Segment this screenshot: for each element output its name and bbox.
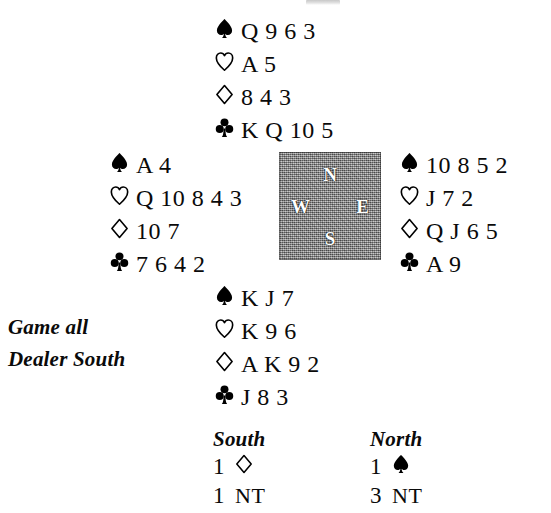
hand-east-spades: 10 8 5 2 — [426, 153, 508, 177]
compass-east-label: E — [356, 197, 369, 216]
hand-north-clubs: K Q 10 5 — [241, 118, 334, 142]
spade-icon — [110, 152, 136, 173]
hand-south-spades-row: K J 7 — [215, 285, 320, 318]
diamond-icon — [110, 218, 136, 239]
vulnerability-label: Game all — [8, 311, 125, 343]
auction-bid-south-1: 1 — [213, 454, 265, 484]
heart-icon — [215, 318, 241, 339]
auction-bid-south-2: 1 NT — [213, 484, 265, 513]
diamond-icon — [215, 351, 241, 372]
auction-table: South 1 1 NT North 1 3 NT — [0, 424, 551, 513]
hand-west-diamonds: 10 7 — [136, 219, 180, 243]
compass-north-label: N — [323, 165, 337, 184]
dealer-label: Dealer South — [8, 343, 125, 375]
hand-west-spades: A 4 — [136, 153, 172, 177]
hand-east-diamonds: Q J 6 5 — [426, 219, 498, 243]
auction-header-south: South — [213, 424, 265, 454]
bid-denomination-notrump: NT — [235, 485, 265, 507]
hand-east-hearts: J 7 2 — [426, 186, 474, 210]
compass-south-label: S — [325, 229, 336, 248]
hand-east: 10 8 5 2 J 7 2 Q J 6 5 — [400, 152, 508, 284]
heart-icon — [215, 51, 241, 72]
auction-bid-north-2: 3 NT — [370, 484, 422, 513]
spade-icon — [215, 285, 241, 306]
hand-south-clubs: J 8 3 — [241, 385, 289, 409]
compass-west-label: W — [291, 197, 310, 216]
bid-level: 1 — [213, 455, 235, 478]
club-icon — [400, 251, 426, 272]
club-icon — [215, 384, 241, 405]
diamond-icon — [235, 454, 253, 474]
hand-north-hearts-row: A 5 — [215, 51, 334, 84]
hand-north: Q 9 6 3 A 5 8 4 3 — [215, 18, 334, 150]
hand-north-clubs-row: K Q 10 5 — [215, 117, 334, 150]
heart-icon — [400, 185, 426, 206]
hand-west-clubs-row: 7 6 4 2 — [110, 251, 242, 284]
spade-icon — [215, 18, 241, 39]
hand-north-spades: Q 9 6 3 — [241, 19, 316, 43]
auction-column-south: South 1 1 NT — [213, 424, 265, 513]
hand-east-diamonds-row: Q J 6 5 — [400, 218, 508, 251]
hand-south-diamonds-row: A K 9 2 — [215, 351, 320, 384]
club-icon — [110, 251, 136, 272]
hand-north-hearts: A 5 — [241, 52, 277, 76]
bid-level: 1 — [370, 455, 392, 478]
auction-column-north: North 1 3 NT — [370, 424, 422, 513]
hand-east-clubs: A 9 — [426, 252, 462, 276]
heart-icon — [110, 185, 136, 206]
hand-west-diamonds-row: 10 7 — [110, 218, 242, 251]
hand-east-spades-row: 10 8 5 2 — [400, 152, 508, 185]
club-icon — [215, 117, 241, 138]
diamond-icon — [215, 84, 241, 105]
bid-denomination-notrump: NT — [392, 485, 422, 507]
hand-south-clubs-row: J 8 3 — [215, 384, 320, 417]
scan-artifact — [306, 0, 340, 5]
hand-west-hearts: Q 10 8 4 3 — [136, 186, 242, 210]
hand-west-hearts-row: Q 10 8 4 3 — [110, 185, 242, 218]
bid-level: 1 — [213, 484, 235, 507]
hand-south: K J 7 K 9 6 A K 9 2 — [215, 285, 320, 417]
hand-west: A 4 Q 10 8 4 3 10 7 — [110, 152, 242, 284]
hand-south-spades: K J 7 — [241, 286, 294, 310]
hand-south-hearts-row: K 9 6 — [215, 318, 320, 351]
compass-box: N W E S — [279, 152, 381, 260]
hand-south-hearts: K 9 6 — [241, 319, 297, 343]
hand-south-diamonds: A K 9 2 — [241, 352, 320, 376]
hand-north-diamonds: 8 4 3 — [241, 85, 292, 109]
bid-level: 3 — [370, 484, 392, 507]
diamond-icon — [400, 218, 426, 239]
hand-east-hearts-row: J 7 2 — [400, 185, 508, 218]
hand-north-diamonds-row: 8 4 3 — [215, 84, 334, 117]
spade-icon — [392, 454, 410, 474]
spade-icon — [400, 152, 426, 173]
auction-header-north: North — [370, 424, 422, 454]
hand-north-spades-row: Q 9 6 3 — [215, 18, 334, 51]
hand-west-clubs: 7 6 4 2 — [136, 252, 206, 276]
auction-bid-north-1: 1 — [370, 454, 422, 484]
hand-west-spades-row: A 4 — [110, 152, 242, 185]
hand-east-clubs-row: A 9 — [400, 251, 508, 284]
deal-conditions: Game all Dealer South — [8, 311, 125, 375]
